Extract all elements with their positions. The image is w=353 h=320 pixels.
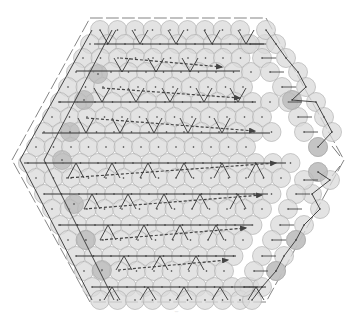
circle-center-dot (140, 146, 142, 148)
circle-center-dot (61, 159, 63, 161)
circle-center-dot (290, 162, 292, 164)
circle-center-dot (187, 57, 189, 59)
circle-center-dot (222, 299, 224, 301)
circle-center-dot (152, 57, 154, 59)
circle-center-dot (190, 86, 192, 88)
circle-center-dot (244, 208, 246, 210)
circle-center-dot (153, 270, 155, 272)
circle-center-dot (187, 29, 189, 31)
circle-center-dot (210, 177, 212, 179)
circle-center-dot (155, 239, 157, 241)
circle-center-dot (35, 146, 37, 148)
circle-center-dot (222, 29, 224, 31)
figure-caption: — (0, 309, 353, 314)
circle-center-dot (188, 270, 190, 272)
circle-center-dot (271, 131, 273, 133)
circle-center-dot (271, 193, 273, 195)
circle-center-dot (242, 239, 244, 241)
circle-center-dot (158, 146, 160, 148)
circle-center-dot (193, 146, 195, 148)
circle-center-dot (244, 116, 246, 118)
circle-center-dot (191, 116, 193, 118)
hexagon-edge-segment (28, 120, 34, 131)
circle-center-dot (104, 116, 106, 118)
circle-center-dot (210, 146, 212, 148)
circle-center-dot (35, 177, 37, 179)
hexagon-edge-segment (37, 205, 43, 216)
circle-center-dot (121, 116, 123, 118)
circle-center-dot (190, 239, 192, 241)
circle-center-dot (169, 299, 171, 301)
hexagon-edge-segment (322, 188, 328, 199)
circle-center-dot (136, 270, 138, 272)
circle-center-dot (225, 86, 227, 88)
circle-center-dot (51, 208, 53, 210)
circle-center-dot (261, 116, 263, 118)
circle-center-dot (83, 270, 85, 272)
circle-center-dot (105, 177, 107, 179)
circle-center-dot (269, 101, 271, 103)
circle-center-dot (250, 71, 252, 73)
circle-center-dot (104, 208, 106, 210)
hexagon-edge-segment (12, 149, 18, 160)
circle-center-dot (171, 270, 173, 272)
circle-center-dot (134, 29, 136, 31)
circle-center-dot (228, 146, 230, 148)
circle-center-dot (209, 116, 211, 118)
circle-center-dot (156, 116, 158, 118)
circle-center-dot (88, 146, 90, 148)
circle-center-dot (139, 116, 141, 118)
circle-center-dot (137, 86, 139, 88)
circle-center-dot (73, 203, 75, 205)
circle-center-dot (85, 86, 87, 88)
circle-center-dot (174, 208, 176, 210)
circle-center-dot (240, 57, 242, 59)
circle-center-dot (88, 177, 90, 179)
circle-center-dot (187, 299, 189, 301)
circle-center-dot (83, 99, 85, 101)
circle-center-dot (226, 208, 228, 210)
circle-center-dot (174, 116, 176, 118)
circle-center-dot (172, 86, 174, 88)
circle-center-dot (193, 177, 195, 179)
hexagon-edge-segment (53, 234, 59, 245)
circle-center-dot (206, 270, 208, 272)
hexagon-edge-segment (338, 160, 344, 171)
circle-center-dot (175, 146, 177, 148)
circle-center-dot (99, 299, 101, 301)
circle-center-dot (51, 116, 53, 118)
circle-center-dot (70, 146, 72, 148)
circle-center-dot (67, 239, 69, 241)
circle-center-dot (121, 208, 123, 210)
circle-center-dot (101, 269, 103, 271)
circle-center-dot (226, 116, 228, 118)
circle-center-dot (205, 57, 207, 59)
circle-center-dot (245, 177, 247, 179)
circle-center-dot (117, 29, 119, 31)
circle-center-dot (139, 208, 141, 210)
hexagon-edge-segment (51, 78, 57, 89)
hexagon-edge-segment (82, 21, 88, 32)
circle-center-dot (120, 239, 122, 241)
hexagon-coverage-figure (0, 0, 353, 320)
circle-center-dot (134, 299, 136, 301)
circle-center-dot (225, 239, 227, 241)
circle-center-dot (204, 299, 206, 301)
circle-center-dot (223, 270, 225, 272)
hexagon-edge-segment (43, 92, 49, 103)
circle-center-dot (69, 116, 71, 118)
circle-center-dot (117, 299, 119, 301)
circle-center-dot (158, 177, 160, 179)
circle-center-dot (152, 29, 154, 31)
circle-center-dot (155, 86, 157, 88)
circle-center-dot (228, 177, 230, 179)
circle-center-dot (123, 146, 125, 148)
circle-center-dot (82, 57, 84, 59)
circle-center-dot (280, 177, 282, 179)
hexagon-edge-segment (67, 49, 73, 60)
circle-center-dot (89, 43, 91, 45)
circle-center-dot (100, 57, 102, 59)
circle-center-dot (261, 208, 263, 210)
circle-center-dot (222, 57, 224, 59)
circle-center-dot (169, 29, 171, 31)
